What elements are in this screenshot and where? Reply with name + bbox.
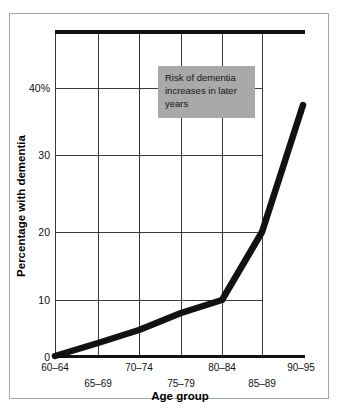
gridline-vertical	[98, 32, 99, 357]
x-tick-label: 60–64	[41, 362, 68, 373]
x-tick-label: 75–79	[167, 378, 194, 389]
y-tick-label: 20	[4, 227, 50, 238]
annotation-line-2: increases in later	[165, 84, 255, 97]
gridline-horizontal	[55, 155, 263, 156]
y-tick-label: 10	[4, 295, 50, 306]
gridline-horizontal	[55, 232, 263, 233]
x-tick-label: 70–74	[125, 362, 152, 373]
x-tick-label: 80–84	[208, 362, 235, 373]
y-tick-label: 40%	[4, 83, 50, 94]
gridline-vertical	[262, 32, 263, 357]
y-tick-label: 0	[4, 352, 50, 363]
y-axis-title: Percentage with dementia	[15, 121, 27, 291]
x-tick-label: 85–89	[248, 378, 275, 389]
gridline-horizontal	[55, 300, 263, 301]
x-axis-line	[55, 355, 305, 358]
gridline-vertical	[55, 32, 56, 357]
x-tick-label: 65–69	[84, 378, 111, 389]
plot-top-border	[55, 30, 305, 34]
annotation-callout: Risk of dementia increases in later year…	[158, 66, 255, 118]
chart-figure: 40% 30 20 10 0 Percentage with dementia …	[0, 0, 339, 410]
annotation-line-3: years	[165, 97, 255, 110]
annotation-line-1: Risk of dementia	[165, 71, 255, 84]
x-axis-title: Age group	[55, 390, 305, 402]
y-tick-label: 30	[4, 150, 50, 161]
x-tick-label: 90–95	[287, 362, 314, 373]
gridline-vertical	[139, 32, 140, 357]
